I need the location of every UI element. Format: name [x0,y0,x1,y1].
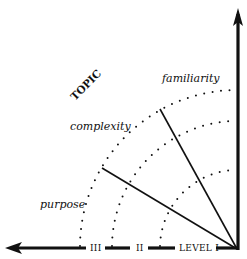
purpose-label: purpose [40,198,86,211]
level-i-label: LEVEL I [179,243,219,253]
topic-label: TOPIC [68,67,103,102]
arc-level-i [160,170,234,246]
familiarity-label: familiarity [161,72,220,85]
level-ii-label: II [136,243,144,253]
complexity-label: complexity [70,120,131,133]
familiarity-line [160,109,237,249]
topic-levels-diagram: TOPIC familiarity complexity purpose III… [0,0,247,259]
purpose-line [102,168,237,249]
level-iii-label: III [90,243,102,253]
arc-level-ii [112,121,234,246]
